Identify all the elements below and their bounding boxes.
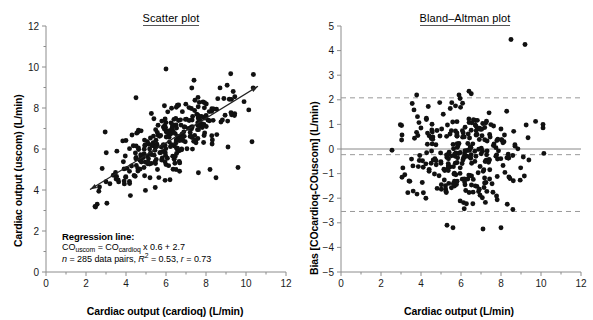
data-point xyxy=(104,201,109,206)
data-point xyxy=(167,135,172,140)
data-point xyxy=(501,163,506,168)
data-point xyxy=(210,142,215,147)
data-point xyxy=(483,200,488,205)
data-point xyxy=(142,138,147,143)
data-point xyxy=(439,182,444,187)
data-point xyxy=(475,132,480,137)
data-point xyxy=(526,158,531,163)
data-point xyxy=(471,177,476,182)
data-point xyxy=(467,89,472,94)
data-point xyxy=(450,119,455,124)
data-point xyxy=(424,116,429,121)
data-point xyxy=(400,165,405,170)
data-point xyxy=(120,138,125,143)
data-point xyxy=(473,183,478,188)
data-point xyxy=(135,130,140,135)
data-point xyxy=(163,117,168,122)
data-point xyxy=(432,172,437,177)
data-point xyxy=(430,141,435,146)
data-point xyxy=(522,174,527,179)
data-point xyxy=(175,146,180,151)
data-point xyxy=(478,193,483,198)
data-point xyxy=(162,103,167,108)
x-tick-label: 0 xyxy=(338,278,344,289)
regression-annotation: Regression line: COuscom = COcardioq x 0… xyxy=(62,231,211,265)
data-point xyxy=(478,164,483,169)
data-point xyxy=(170,125,175,130)
figure-container: Scatter plot 024681012024681012 Cardiac … xyxy=(0,0,593,320)
data-point xyxy=(451,146,456,151)
data-point xyxy=(463,148,468,153)
data-point xyxy=(151,134,156,139)
data-point xyxy=(185,146,190,151)
data-point xyxy=(142,147,147,152)
data-point xyxy=(420,180,425,185)
data-point xyxy=(250,139,255,144)
regression-line-arrowhead xyxy=(90,184,97,190)
regression-annotation-heading: Regression line: xyxy=(62,231,211,242)
data-point xyxy=(96,189,101,194)
data-point xyxy=(424,150,429,155)
data-point xyxy=(409,157,414,162)
data-point xyxy=(225,83,230,88)
data-point xyxy=(146,160,151,165)
data-point xyxy=(207,109,212,114)
y-tick-label: −3 xyxy=(323,217,335,228)
data-point xyxy=(192,78,197,83)
data-point xyxy=(524,123,529,128)
data-point xyxy=(410,163,415,168)
y-tick-label: 1 xyxy=(328,119,334,130)
bland-altman-y-axis-label: Bias [COcardioq-COuscom] (L/min) xyxy=(308,101,320,275)
data-point xyxy=(488,122,493,127)
data-point xyxy=(171,130,176,135)
data-point xyxy=(458,165,463,170)
data-point xyxy=(172,161,177,166)
data-point xyxy=(511,129,516,134)
data-point xyxy=(410,101,415,106)
y-tick-label: 4 xyxy=(33,185,39,196)
data-point xyxy=(453,103,458,108)
data-point xyxy=(148,175,153,180)
data-point xyxy=(457,92,462,97)
data-point xyxy=(430,130,435,135)
data-point xyxy=(179,147,184,152)
data-point xyxy=(152,153,157,158)
x-tick-label: 4 xyxy=(418,278,424,289)
data-point xyxy=(439,187,444,192)
x-tick-label: 4 xyxy=(123,278,129,289)
data-point xyxy=(464,201,469,206)
scatter-plot-canvas: 024681012024681012 xyxy=(0,0,296,320)
data-point xyxy=(162,159,167,164)
data-point xyxy=(499,127,504,132)
data-point xyxy=(449,100,454,105)
y-tick-label: 2 xyxy=(328,94,334,105)
data-point xyxy=(155,130,160,135)
data-point xyxy=(173,154,178,159)
data-point xyxy=(487,167,492,172)
data-point xyxy=(487,177,492,182)
data-point xyxy=(196,170,201,175)
data-point xyxy=(231,89,236,94)
data-point xyxy=(451,142,456,147)
data-point xyxy=(455,119,460,124)
data-point xyxy=(490,181,495,186)
data-point xyxy=(398,122,403,127)
data-point xyxy=(399,138,404,143)
data-point xyxy=(430,122,435,127)
data-point xyxy=(180,136,185,141)
data-point xyxy=(176,103,181,108)
data-point xyxy=(469,128,474,133)
data-point xyxy=(164,67,169,72)
data-point xyxy=(242,99,247,104)
data-point xyxy=(190,147,195,152)
data-point xyxy=(441,112,446,117)
data-point xyxy=(93,204,98,209)
x-tick-label: 12 xyxy=(280,278,292,289)
data-point xyxy=(236,165,241,170)
data-point xyxy=(505,202,510,207)
data-point xyxy=(458,198,463,203)
data-point xyxy=(156,123,161,128)
data-point xyxy=(202,105,207,110)
data-point xyxy=(499,138,504,143)
bland-altman-plot-canvas: −5−4−3−2−1012345024681012 xyxy=(297,0,593,320)
